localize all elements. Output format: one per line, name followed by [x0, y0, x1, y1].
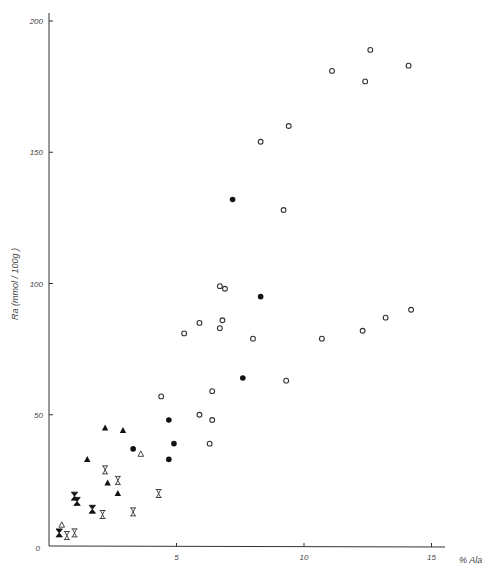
open-circle-marker	[223, 286, 228, 291]
filled-circle-marker	[166, 417, 172, 423]
filled-triangle-marker	[104, 480, 110, 486]
open-hourglass-marker	[64, 532, 70, 540]
y-axis: 50100150200	[29, 13, 53, 546]
filled-circle-marker	[130, 446, 136, 452]
open-circle-marker	[368, 47, 373, 52]
data-points	[56, 47, 414, 539]
open-circle-marker	[217, 326, 222, 331]
open-circle-marker	[207, 441, 212, 446]
open-circle-marker	[363, 79, 368, 84]
x-axis-line	[49, 546, 445, 547]
filled-circle-marker	[171, 441, 177, 447]
open-hourglass-marker	[102, 466, 108, 474]
filled-circle-marker	[258, 294, 264, 300]
open-circle-marker	[258, 139, 263, 144]
open-circle-marker	[319, 336, 324, 341]
open-circle-marker	[286, 124, 291, 129]
filled-triangle-marker	[84, 456, 90, 462]
open-circle-marker	[281, 208, 286, 213]
open-circle-marker	[360, 328, 365, 333]
open-circle-marker	[251, 336, 256, 341]
open-circle-marker	[182, 331, 187, 336]
filled-triangle-marker	[120, 427, 126, 433]
filled-triangle-marker	[102, 424, 108, 430]
open-triangle-marker	[59, 522, 65, 527]
open-triangle-marker	[138, 451, 144, 456]
filled-hourglass-marker	[56, 529, 62, 537]
open-circle-marker	[220, 318, 225, 323]
open-circle-marker	[197, 320, 202, 325]
y-tick-label: 200	[29, 17, 44, 26]
x-tick-label: 15	[427, 553, 436, 562]
open-circle-marker	[409, 307, 414, 312]
x-tick-label: 10	[300, 553, 309, 562]
filled-circle-marker	[166, 457, 172, 463]
open-circle-marker	[330, 68, 335, 73]
filled-hourglass-marker	[74, 497, 80, 505]
filled-circle-marker	[240, 375, 246, 381]
open-circle-marker	[210, 389, 215, 394]
filled-triangle-marker	[115, 490, 121, 496]
x-tick-label: 5	[174, 553, 179, 562]
scatter-chart: 50100150200 51015 Ra (mmol / 100g ) % Al…	[0, 0, 489, 572]
open-circle-marker	[159, 394, 164, 399]
open-circle-marker	[284, 378, 289, 383]
x-axis: 51015	[49, 543, 445, 562]
open-hourglass-marker	[130, 508, 136, 516]
y-axis-label: Ra (mmol / 100g )	[10, 248, 20, 320]
filled-hourglass-marker	[89, 505, 95, 513]
open-hourglass-marker	[156, 490, 162, 498]
open-circle-marker	[406, 63, 411, 68]
open-hourglass-marker	[100, 511, 106, 519]
open-circle-marker	[383, 315, 388, 320]
open-circle-marker	[197, 412, 202, 417]
filled-circle-marker	[230, 197, 236, 203]
y-tick-label: 50	[34, 411, 43, 420]
open-hourglass-marker	[72, 529, 78, 537]
open-circle-marker	[217, 284, 222, 289]
origin-label: 0	[36, 544, 41, 553]
y-tick-label: 150	[30, 148, 44, 157]
open-hourglass-marker	[115, 476, 121, 484]
open-circle-marker	[210, 418, 215, 423]
y-tick-label: 100	[30, 280, 44, 289]
x-axis-label: % Ala	[459, 555, 482, 565]
